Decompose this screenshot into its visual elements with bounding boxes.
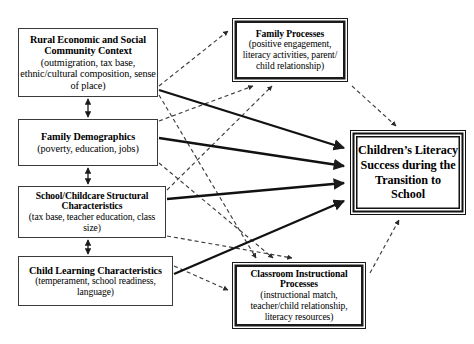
node-childrens-literacy-success[interactable]: Children’s Literacy Success during the T… <box>350 130 466 215</box>
node-title: Family Demographics <box>41 131 135 142</box>
node-family-processes[interactable]: Family Processes (positive engagement, l… <box>232 18 348 82</box>
node-detail: (instructional match, teacher/child rela… <box>237 290 361 322</box>
node-classroom-instructional-processes[interactable]: Classroom Instructional Processes (instr… <box>232 262 366 329</box>
node-rural-economic-social-community-context[interactable]: Rural Economic and Social Community Cont… <box>18 28 158 97</box>
diagram-canvas: Rural Economic and Social Community Cont… <box>0 0 474 344</box>
link-rural-context-to-outcome <box>159 90 344 148</box>
node-detail: (outmigration, tax base, ethnic/cultural… <box>19 57 157 91</box>
link-school-structural-to-classroom-processes <box>167 236 292 258</box>
node-title: Rural Economic and Social Community Cont… <box>19 34 157 57</box>
link-child-learning-to-classroom-processes <box>174 266 228 290</box>
node-family-demographics[interactable]: Family Demographics (poverty, education,… <box>18 119 158 166</box>
link-school-structural-to-family-processes <box>167 86 272 190</box>
node-title: Classroom Instructional Processes <box>237 269 361 290</box>
node-child-learning-characteristics[interactable]: Child Learning Characteristics (temperam… <box>18 256 173 306</box>
solid-links-to-outcome <box>159 90 344 274</box>
node-detail: (positive engagement, literacy activitie… <box>237 39 343 71</box>
node-detail: (tax base, teacher education, class size… <box>19 212 165 233</box>
node-title: Children’s Literacy Success during the T… <box>357 143 459 202</box>
link-school-structural-to-outcome <box>167 183 344 199</box>
dashed-links-to-classroom-processes <box>159 95 292 290</box>
node-detail: (poverty, education, jobs) <box>37 143 138 154</box>
node-detail: (temperament, school readiness, language… <box>19 276 172 297</box>
link-family-demographics-to-family-processes <box>159 86 253 121</box>
link-rural-context-to-classroom-processes <box>159 95 256 258</box>
node-title: School/Childcare Structural Characterist… <box>19 191 165 212</box>
node-school-childcare-structural-characteristics[interactable]: School/Childcare Structural Characterist… <box>18 186 166 238</box>
link-classroom-processes-to-outcome <box>370 220 399 273</box>
link-family-demographics-to-classroom-processes <box>159 163 273 258</box>
link-family-demographics-to-outcome <box>159 138 344 166</box>
link-family-processes-to-outcome <box>352 86 396 126</box>
link-rural-context-to-family-processes <box>159 31 228 86</box>
